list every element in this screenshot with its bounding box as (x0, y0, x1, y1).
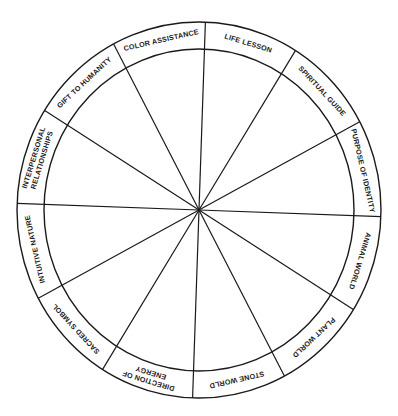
segment-label-interpersonal-relationships: INTERPERSONALRELATIONSHIPS (20, 125, 56, 192)
segment-label-stone-world: STONE WORLD (209, 369, 266, 390)
spoke-line (199, 22, 205, 210)
spoke-line (199, 51, 295, 210)
spoke-line (103, 210, 199, 369)
spoke-line (199, 122, 360, 210)
spokes (17, 22, 381, 398)
spoke-line (193, 210, 199, 398)
spoke-line (38, 210, 199, 298)
medicine-wheel-diagram: LIFE LESSONSPIRITUAL GUIDEPURPOSE OF IDE… (0, 0, 398, 416)
spoke-line (114, 44, 199, 210)
segment-label-text: STONE WORLD (209, 369, 266, 390)
spoke-line (199, 210, 353, 310)
segment-label-intuitive-nature: INTUITIVE NATURE (23, 214, 47, 284)
segment-label-text: INTUITIVE NATURE (23, 214, 47, 284)
segment-label-plant-world: PLANT WORLD (291, 315, 338, 359)
spoke-line (199, 210, 284, 376)
segment-label-text: PLANT WORLD (291, 315, 338, 359)
wheel-group: LIFE LESSONSPIRITUAL GUIDEPURPOSE OF IDE… (17, 22, 381, 398)
spoke-line (45, 110, 199, 210)
segment-label-direction-of-energy: DIRECTION OFENERGY (121, 361, 178, 394)
